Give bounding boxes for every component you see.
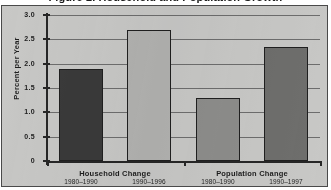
y-axis-tick-mark <box>43 87 50 89</box>
gridline <box>47 15 320 16</box>
bar-4 <box>264 47 308 161</box>
x-axis-tick-mark <box>320 161 322 166</box>
y-axis-tick-label: 0 <box>9 157 35 164</box>
y-axis-tick-mark <box>43 136 50 138</box>
y-axis-tick-mark <box>43 38 50 40</box>
y-axis-tick-label: 1.0 <box>9 108 35 115</box>
group-label: Population Change <box>192 169 312 178</box>
bar-2 <box>127 30 171 161</box>
y-axis-tick-label: 3.0 <box>9 11 35 18</box>
y-axis-tick-mark <box>43 111 50 113</box>
y-axis-tick-label: 0.5 <box>9 133 35 140</box>
y-axis-title: Percent per Year <box>12 34 21 104</box>
y-axis-line <box>46 13 48 165</box>
bar-3 <box>196 98 240 161</box>
period-label: 1990–1997 <box>246 178 326 185</box>
y-axis-tick-mark <box>43 14 50 16</box>
x-axis-tick-mark <box>184 161 186 166</box>
y-axis-tick-label: 2.5 <box>9 35 35 42</box>
y-axis-tick-mark <box>43 63 50 65</box>
group-label: Household Change <box>55 169 175 178</box>
plot-area <box>47 15 320 161</box>
period-label: 1990–1996 <box>109 178 189 185</box>
x-axis-tick-mark <box>47 161 49 166</box>
gridline <box>47 39 320 40</box>
y-axis-tick-label: 1.5 <box>9 84 35 91</box>
bar-1 <box>59 69 103 161</box>
y-axis-tick-label: 2.0 <box>9 60 35 67</box>
chart-figure-frame: Percent per Year 3.02.52.01.51.00.501980… <box>1 5 328 187</box>
